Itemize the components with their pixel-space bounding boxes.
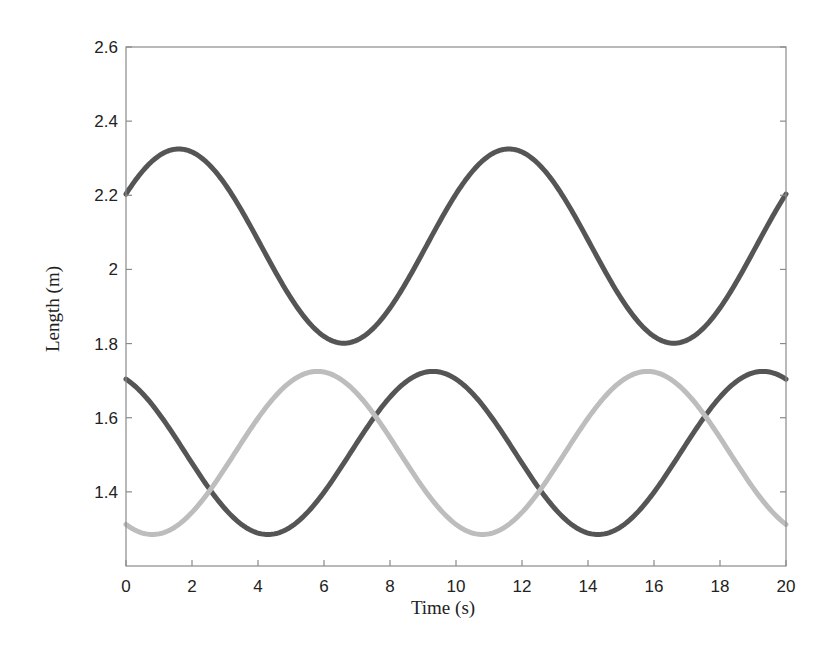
y-tick-label: 1.4 — [94, 483, 118, 502]
x-tick-label: 14 — [579, 577, 598, 596]
y-tick-label: 2.4 — [94, 112, 118, 131]
series-line — [126, 149, 786, 343]
plot-frame — [126, 47, 786, 566]
y-axis: 1.41.61.822.22.42.6 — [94, 38, 786, 502]
x-tick-label: 12 — [513, 577, 532, 596]
line-chart: 02468101214161820 1.41.61.822.22.42.6 Ti… — [0, 0, 833, 660]
series-layer — [126, 149, 786, 535]
x-tick-label: 0 — [121, 577, 130, 596]
y-tick-label: 2.6 — [94, 38, 118, 57]
x-tick-label: 16 — [645, 577, 664, 596]
x-tick-label: 20 — [777, 577, 796, 596]
y-tick-label: 1.8 — [94, 335, 118, 354]
y-tick-label: 2 — [109, 260, 118, 279]
x-tick-label: 10 — [447, 577, 466, 596]
x-tick-label: 18 — [711, 577, 730, 596]
x-tick-label: 6 — [319, 577, 328, 596]
x-axis-title: Time (s) — [411, 597, 475, 619]
y-axis-title: Length (m) — [42, 266, 64, 352]
x-tick-label: 2 — [187, 577, 196, 596]
x-tick-label: 4 — [253, 577, 262, 596]
y-tick-label: 2.2 — [94, 186, 118, 205]
y-tick-label: 1.6 — [94, 409, 118, 428]
x-tick-label: 8 — [385, 577, 394, 596]
